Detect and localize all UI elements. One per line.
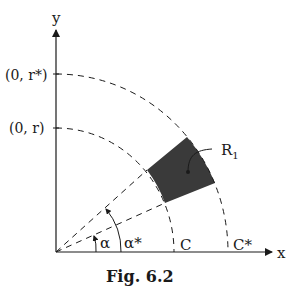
y-tick-label-r-star: (0, r*) <box>5 67 47 83</box>
arc-r <box>56 128 174 252</box>
x-axis-label: x <box>277 244 286 262</box>
region-label: R1 <box>221 141 239 161</box>
y-tick-label-r: (0, r) <box>9 120 44 136</box>
y-axis-label: y <box>51 9 61 27</box>
x-tick-label-c-star: C* <box>233 236 252 254</box>
x-tick-label-c: C <box>180 236 191 254</box>
figure-diagram: y x (0, r*) (0, r) C C* α α* R1 Fig. 6.2 <box>0 0 297 291</box>
r1-dot <box>186 170 190 174</box>
angle-label-alpha: α <box>100 234 110 252</box>
angle-arc-alpha <box>94 236 96 252</box>
ray-alpha <box>56 203 165 252</box>
figure-caption: Fig. 6.2 <box>106 267 174 286</box>
angle-label-alpha-star: α* <box>124 234 142 252</box>
region-r1 <box>147 137 215 203</box>
